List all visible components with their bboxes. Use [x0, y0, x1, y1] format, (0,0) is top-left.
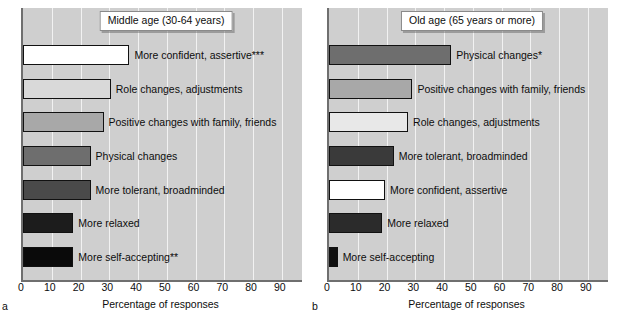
bar-label: Positive changes with family, friends [417, 84, 585, 95]
panel-letter-a: a [2, 301, 8, 312]
panel-a: More confident, assertive***Role changes… [0, 0, 312, 329]
bar-row: Positive changes with family, friends [23, 112, 276, 132]
figure-two-panel-bar-charts: More confident, assertive***Role changes… [0, 0, 625, 329]
panel-title-b: Old age (65 years or more) [401, 11, 543, 31]
bar [23, 247, 73, 267]
x-axis-tick-label: 50 [465, 282, 477, 293]
bar [329, 146, 394, 166]
bar [329, 180, 385, 200]
x-axis-tick-label: 50 [159, 282, 171, 293]
bar [23, 112, 104, 132]
x-axis-title-b: Percentage of responses [327, 299, 606, 310]
x-axis-ticks-b: 0102030405060708090 [327, 282, 606, 296]
bar-row: Positive changes with family, friends [329, 79, 585, 99]
bar [329, 112, 408, 132]
bar-label: More relaxed [78, 218, 139, 229]
bar [23, 213, 73, 233]
bar-row: More self-accepting [329, 247, 434, 267]
bar-group-a: More confident, assertive***Role changes… [23, 8, 302, 280]
bar-label: Positive changes with family, friends [109, 117, 277, 128]
bar-row: Physical changes [23, 146, 177, 166]
panel-title-a: Middle age (30-64 years) [100, 11, 233, 31]
bar-label: Role changes, adjustments [116, 84, 243, 95]
bar-row: More relaxed [329, 213, 448, 233]
bar [329, 213, 382, 233]
panel-b: Physical changes*Positive changes with f… [312, 0, 625, 329]
x-axis-tick-label: 70 [216, 282, 228, 293]
x-axis-tick-label: 30 [407, 282, 419, 293]
bar-label: Physical changes* [456, 50, 542, 61]
x-axis-tick-label: 40 [436, 282, 448, 293]
bar-row: Physical changes* [329, 45, 542, 65]
bar [329, 79, 412, 99]
bar [23, 45, 129, 65]
bar-row: More self-accepting** [23, 247, 178, 267]
bar-group-b: Physical changes*Positive changes with f… [329, 8, 608, 280]
bar-row: Role changes, adjustments [329, 112, 540, 132]
bar-row: More confident, assertive*** [23, 45, 264, 65]
x-axis-tick-label: 20 [379, 282, 391, 293]
x-axis-tick-label: 30 [101, 282, 113, 293]
bar-row: Role changes, adjustments [23, 79, 242, 99]
bar-label: More relaxed [387, 218, 448, 229]
bar-label: More self-accepting** [78, 252, 178, 263]
bar-label: More tolerant, broadminded [399, 151, 528, 162]
bar [329, 45, 451, 65]
x-axis-tick-label: 0 [324, 282, 330, 293]
plot-area-a: More confident, assertive***Role changes… [21, 8, 302, 280]
x-axis-tick-label: 60 [188, 282, 200, 293]
x-axis-tick-label: 90 [580, 282, 592, 293]
bar-row: More tolerant, broadminded [23, 180, 225, 200]
x-axis-tick-label: 80 [551, 282, 563, 293]
x-axis-tick-label: 0 [18, 282, 24, 293]
bar-row: More confident, assertive [329, 180, 507, 200]
x-axis-tick-label: 70 [522, 282, 534, 293]
bar [23, 180, 91, 200]
bar [23, 146, 91, 166]
x-axis-tick-label: 90 [274, 282, 286, 293]
bar-row: More relaxed [23, 213, 140, 233]
bar-row: More tolerant, broadminded [329, 146, 528, 166]
x-axis-tick-label: 10 [350, 282, 362, 293]
x-axis-tick-label: 40 [130, 282, 142, 293]
bar [329, 247, 338, 267]
bar-label: Role changes, adjustments [413, 117, 540, 128]
x-axis-tick-label: 60 [494, 282, 506, 293]
x-axis-title-a: Percentage of responses [21, 299, 300, 310]
bar [23, 79, 111, 99]
bar-label: More confident, assertive [390, 185, 507, 196]
x-axis-tick-label: 20 [73, 282, 85, 293]
bar-label: More confident, assertive*** [134, 50, 264, 61]
panel-letter-b: b [312, 301, 318, 312]
x-axis-tick-label: 80 [245, 282, 257, 293]
bar-label: More self-accepting [343, 252, 435, 263]
bar-label: Physical changes [96, 151, 178, 162]
x-axis-tick-label: 10 [44, 282, 56, 293]
x-axis-ticks-a: 0102030405060708090 [21, 282, 300, 296]
plot-area-b: Physical changes*Positive changes with f… [327, 8, 608, 280]
bar-label: More tolerant, broadminded [96, 185, 225, 196]
